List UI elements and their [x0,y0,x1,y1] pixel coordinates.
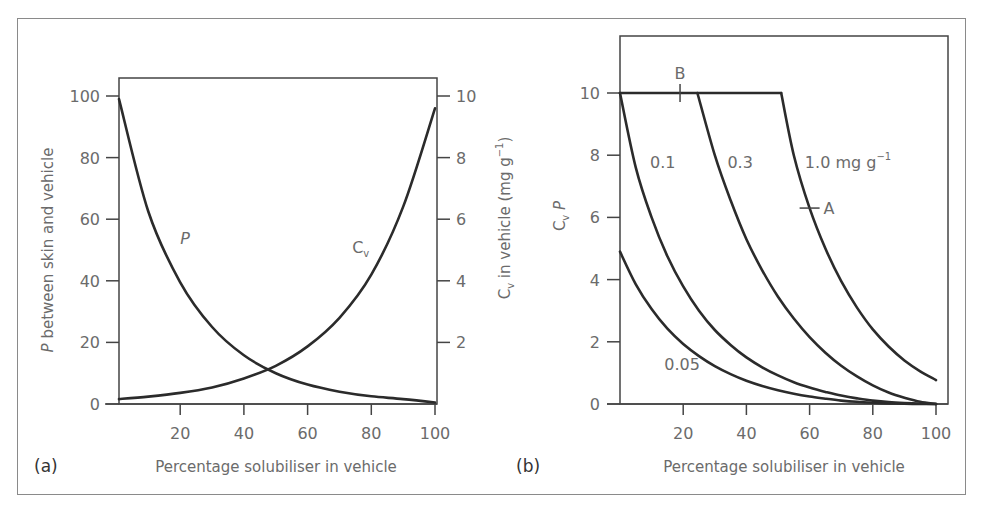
y2-tick-label: 8 [456,149,466,168]
y-tick-label: 60 [80,210,100,229]
panel-b-chart: 204060801000246810 0.050.10.31.0 mg g−1B… [516,36,951,476]
panel-a-y-axis-title: P between skin and vehicle [39,148,57,353]
panel-a-x-axis-title: Percentage solubiliser in vehicle [155,458,397,476]
panel-b-plot-area [620,36,948,404]
y-tick-label: 2 [590,333,600,352]
y2-tick-label: 4 [456,272,466,291]
y-tick-label: 80 [80,149,100,168]
y-tick-label: 100 [69,87,100,106]
y-tick-label: 6 [590,208,600,227]
y2-title-sup: −1 [494,143,505,158]
panel-b-labels: 0.050.10.31.0 mg g−1BA [650,64,891,374]
curve-0-05 [620,252,936,404]
panel-a-curves [119,99,435,402]
y2-tick-label: 10 [456,87,476,106]
panel-b-y-axis-title: Cv P [551,200,571,231]
x-tick-label: 80 [863,424,883,443]
panel-a-labels: PCv [180,229,369,259]
p-symbol: P [551,200,569,215]
x-tick-label: 100 [420,424,451,443]
panel-a-label: (a) [34,456,58,476]
panel-b-axes: 204060801000246810 [580,84,952,443]
y-title-rest: between skin and vehicle [39,148,57,344]
x-tick-label: 20 [170,424,190,443]
y-tick-label: 0 [590,395,600,414]
y-tick-label: 10 [580,84,600,103]
curve-label: P [180,229,190,248]
x-tick-label: 80 [361,424,381,443]
curve-label: 0.3 [727,153,752,172]
panel-a-y2-axis-title: Cv in vehicle (mg g−1) [494,137,516,300]
curve-p [119,99,435,402]
x-tick-label: 40 [234,424,254,443]
panel-b-x-axis-title: Percentage solubiliser in vehicle [663,458,905,476]
x-tick-label: 20 [673,424,693,443]
annotation-label: A [824,199,835,218]
y2-tick-label: 2 [456,333,466,352]
y-tick-label: 0 [90,395,100,414]
curve-label: 1.0 mg g−1 [805,151,891,172]
annotation-label: B [675,64,686,83]
panel-a-axes: 20406080100020406080100246810 [69,87,476,443]
curve-label: 0.1 [650,153,675,172]
y-tick-label: 4 [590,271,600,290]
curve-label: Cv [352,238,369,259]
cv-symbol: C [551,221,569,231]
y2-title-close: ) [496,137,514,143]
y-tick-label: 8 [590,146,600,165]
x-tick-label: 60 [799,424,819,443]
y-tick-label: 20 [80,333,100,352]
curve-1-0-mg-g-1 [781,93,936,380]
y2-tick-label: 6 [456,210,466,229]
panel-b-label: (b) [516,456,540,476]
x-tick-label: 100 [921,424,952,443]
x-tick-label: 60 [297,424,317,443]
figure-svg: 20406080100020406080100246810 PCv Percen… [0,0,983,507]
y2-title-rest: in vehicle (mg g [496,157,514,283]
curve-label: 0.05 [664,355,700,374]
panel-a-chart: 20406080100020406080100246810 PCv Percen… [34,78,516,476]
y-tick-label: 40 [80,272,100,291]
x-tick-label: 40 [736,424,756,443]
cv-symbol: C [496,289,514,299]
